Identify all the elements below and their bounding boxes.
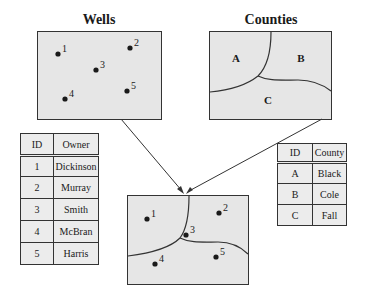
county-table-header-county: County — [313, 144, 347, 163]
county-region-label: A — [232, 52, 240, 64]
well-point-icon — [55, 51, 60, 56]
cell-owner: Harris — [54, 243, 99, 265]
cell-owner: Dickinson — [54, 156, 99, 177]
cell-id: C — [278, 205, 313, 226]
cell-id: 3 — [21, 199, 54, 221]
owner-table-header-id: ID — [21, 134, 54, 156]
well-label: 2 — [134, 37, 139, 48]
well-point-icon — [183, 232, 188, 237]
well-label: 3 — [190, 224, 195, 235]
cell-id: 1 — [21, 156, 54, 177]
table-row: 5 Harris — [21, 243, 99, 265]
cell-id: A — [278, 163, 313, 184]
well-point-icon — [93, 67, 98, 72]
cell-county: Fall — [313, 205, 347, 226]
county-region-label: C — [264, 94, 272, 106]
owner-table-header-owner: Owner — [54, 134, 99, 156]
well-label: 4 — [159, 253, 164, 264]
cell-id: 4 — [21, 221, 54, 243]
cell-owner: Murray — [54, 177, 99, 199]
wells-map: 12345 — [38, 32, 162, 120]
cell-county: Cole — [313, 184, 347, 205]
well-point-icon — [124, 88, 129, 93]
table-row: C Fall — [278, 205, 347, 226]
cell-county: Black — [313, 163, 347, 184]
cell-id: B — [278, 184, 313, 205]
arrow-wells-to-overlay — [121, 119, 182, 191]
overlay-map: 12345 — [128, 196, 249, 285]
table-row: 3 Smith — [21, 199, 99, 221]
well-label: 1 — [151, 208, 156, 219]
well-point-icon — [152, 261, 157, 266]
well-point-icon — [62, 96, 67, 101]
cell-owner: McBran — [54, 221, 99, 243]
table-row: 1 Dickinson — [21, 156, 99, 177]
well-label: 5 — [220, 246, 225, 257]
well-label: 3 — [100, 59, 105, 70]
county-region-label: B — [297, 52, 305, 64]
cell-owner: Smith — [54, 199, 99, 221]
well-point-icon — [216, 210, 221, 215]
well-label: 1 — [62, 43, 67, 54]
well-point-icon — [144, 216, 149, 221]
table-row: A Black — [278, 163, 347, 184]
arrowhead-icon — [177, 186, 184, 194]
table-row: 4 McBran — [21, 221, 99, 243]
table-row: 2 Murray — [21, 177, 99, 199]
well-label: 4 — [69, 88, 74, 99]
table-row: B Cole — [278, 184, 347, 205]
well-point-icon — [213, 254, 218, 259]
arrowhead-icon — [186, 187, 193, 194]
owner-table: ID Owner 1 Dickinson 2 Murray 3 Smith 4 … — [20, 133, 99, 265]
counties-map: ABC — [210, 32, 332, 120]
well-point-icon — [127, 45, 132, 50]
well-label: 2 — [223, 202, 228, 213]
cell-id: 2 — [21, 177, 54, 199]
cell-id: 5 — [21, 243, 54, 265]
well-label: 5 — [131, 80, 136, 91]
county-table: ID County A Black B Cole C Fall — [277, 143, 347, 226]
county-table-header-id: ID — [278, 144, 313, 163]
